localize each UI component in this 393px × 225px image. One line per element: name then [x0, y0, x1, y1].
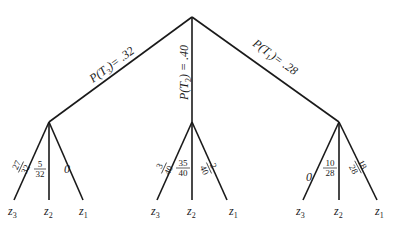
leaf-T2-z2: z2 [186, 204, 196, 220]
leaf-T1-z2: z2 [333, 204, 343, 220]
prob-T2-z2: 35 40 [176, 158, 190, 178]
svg-text:40: 40 [179, 168, 189, 178]
prob-T3-z2: 5 32 [34, 159, 46, 179]
prob-T2-z3: 3 40 [152, 158, 175, 177]
leaf-T2-z3: z3 [150, 204, 160, 220]
leaf-T1-z3: z3 [295, 204, 305, 220]
branch-label-T1: P(T1)= .28 [248, 36, 300, 80]
svg-text:28: 28 [326, 168, 336, 178]
edge-T3-z3 [14, 122, 49, 200]
svg-text:10: 10 [326, 158, 336, 168]
edge-T1 [192, 17, 339, 122]
edge-T3 [49, 17, 192, 122]
leaf-T1-z1: z1 [374, 204, 384, 220]
leaf-T3-z1: z1 [78, 204, 88, 220]
leaf-T3-z2: z2 [43, 204, 53, 220]
edge-T2-z1 [192, 122, 227, 200]
probability-tree: P(T3)= .32 P(T2) = .40 P(T1)= .28 27 32 … [0, 0, 393, 225]
branch-label-T2: P(T2) = .40 [177, 45, 193, 101]
prob-T3-z3: 27 32 [9, 157, 32, 176]
leaf-T2-z1: z1 [228, 204, 238, 220]
svg-text:5: 5 [38, 159, 43, 169]
edge-T3-z1 [49, 122, 83, 200]
prob-T1-z3: 0 [306, 170, 312, 184]
svg-text:35: 35 [179, 158, 189, 168]
branch-label-T3: P(T3)= .32 [86, 43, 138, 87]
leaf-T3-z3: z3 [7, 204, 17, 220]
prob-T1-z2: 10 28 [323, 158, 337, 178]
svg-text:32: 32 [36, 169, 45, 179]
prob-T3-z1: 0 [64, 162, 70, 176]
